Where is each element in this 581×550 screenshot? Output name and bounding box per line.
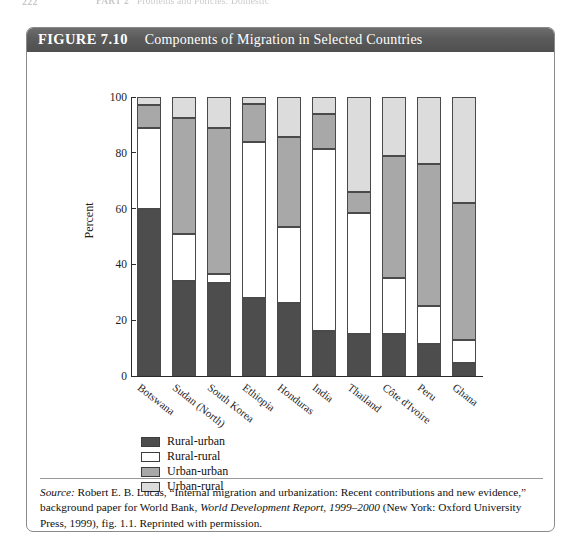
legend-label: Rural-rural (167, 449, 220, 464)
bar-botswana[interactable] (137, 97, 161, 376)
bar-segment-rural-rural (382, 278, 406, 334)
bar-segment-urban-urban (207, 128, 231, 274)
bar-segment-urban-urban (242, 104, 266, 142)
bar-thailand[interactable] (347, 97, 371, 376)
source-report-title: World Development Report, 1999–2000 (200, 501, 380, 513)
chart-area: Percent 020406080100 BotswanaSudan (Nort… (27, 53, 555, 478)
y-axis-tick: 80 (116, 147, 132, 159)
bar-india[interactable] (312, 97, 336, 376)
bar-segment-urban-rural (277, 97, 301, 137)
bar-segment-urban-urban (417, 164, 441, 306)
y-axis-tick: 20 (116, 314, 132, 326)
bar-segment-urban-rural (137, 97, 161, 105)
bar-segment-rural-urban (417, 344, 441, 376)
bar-segment-urban-rural (382, 97, 406, 156)
x-axis-label-peru: Peru (416, 381, 439, 403)
y-axis-tick-label: 80 (116, 147, 128, 159)
figure-title: Components of Migration in Selected Coun… (145, 32, 423, 48)
bar-segment-rural-urban (137, 209, 161, 376)
legend-label: Urban-urban (167, 464, 228, 479)
bar-segment-urban-urban (382, 156, 406, 279)
bar-segment-rural-urban (347, 334, 371, 376)
page-running-head: 222 PART 2Problems and Policies: Domesti… (0, 0, 581, 14)
bar-segment-urban-urban (312, 114, 336, 149)
bar-segment-urban-rural (452, 97, 476, 203)
bar-group (131, 97, 482, 376)
y-axis-tick-label: 100 (110, 91, 127, 103)
bar-segment-urban-rural (417, 97, 441, 164)
legend-swatch-rural-rural (141, 452, 160, 462)
x-axis-label-thailand: Thailand (346, 381, 384, 415)
legend-label: Rural-urban (167, 434, 225, 449)
bar-segment-rural-urban (242, 298, 266, 376)
bar-segment-rural-urban (452, 363, 476, 376)
y-axis-tick-label: 0 (121, 370, 127, 382)
bar-segment-rural-rural (137, 128, 161, 209)
running-head-part: PART 2 (96, 0, 129, 6)
y-axis-tick: 0 (121, 370, 131, 382)
bar-ethiopia[interactable] (242, 97, 266, 376)
bar-segment-urban-rural (347, 97, 371, 192)
bar-segment-rural-rural (452, 340, 476, 364)
bar-segment-rural-urban (312, 331, 336, 376)
x-axis-label-india: India (311, 381, 336, 404)
y-axis-tick-label: 20 (116, 314, 128, 326)
source-divider (40, 478, 543, 479)
bar-sudan-north[interactable] (172, 97, 196, 376)
bar-segment-rural-urban (277, 303, 301, 376)
bar-segment-rural-urban (172, 281, 196, 376)
bar-segment-rural-urban (382, 334, 406, 376)
legend-swatch-rural-urban (141, 437, 160, 447)
y-axis-tick: 60 (116, 203, 132, 215)
y-axis-tick-label: 40 (116, 258, 128, 270)
bar-segment-urban-rural (207, 97, 231, 128)
bar-segment-urban-urban (172, 118, 196, 234)
y-axis-tick: 40 (116, 258, 132, 270)
bar-segment-rural-urban (207, 283, 231, 376)
bar-segment-urban-rural (312, 97, 336, 114)
bar-ghana[interactable] (452, 97, 476, 376)
figure-title-banner: FIGURE 7.10 Components of Migration in S… (26, 27, 555, 52)
bar-segment-rural-rural (207, 274, 231, 282)
bar-segment-rural-rural (347, 213, 371, 334)
source-note: Source: Robert E. B. Lucas, “Internal mi… (40, 485, 545, 531)
bar-segment-rural-rural (417, 306, 441, 344)
bar-segment-rural-rural (312, 149, 336, 332)
page-folio-number: 222 (22, 0, 38, 7)
x-axis-label-honduras: Honduras (276, 381, 317, 417)
bar-c-te-d-ivoire[interactable] (382, 97, 406, 376)
legend-item-rural-rural[interactable]: Rural-rural (141, 449, 361, 464)
figure-number-label: FIGURE 7.10 (38, 31, 128, 48)
bar-segment-urban-urban (137, 105, 161, 127)
x-axis-label-botswana: Botswana (135, 381, 177, 417)
figure-container: FIGURE 7.10 Components of Migration in S… (26, 27, 555, 532)
source-word: Source: (40, 486, 75, 498)
bar-segment-rural-rural (242, 142, 266, 298)
bar-segment-urban-urban (277, 137, 301, 226)
y-axis-tick: 100 (110, 91, 131, 103)
x-axis-label-ghana: Ghana (451, 381, 481, 408)
bar-segment-urban-rural (242, 97, 266, 104)
bar-segment-urban-rural (172, 97, 196, 118)
bar-honduras[interactable] (277, 97, 301, 376)
bar-south-korea[interactable] (207, 97, 231, 376)
running-head-text: PART 2Problems and Policies: Domestic (96, 0, 269, 6)
y-axis-tick-label: 60 (116, 203, 128, 215)
bar-segment-rural-rural (172, 234, 196, 281)
y-axis-title: Percent (82, 203, 97, 239)
bar-peru[interactable] (417, 97, 441, 376)
legend-swatch-urban-urban (141, 467, 160, 477)
legend-item-rural-urban[interactable]: Rural-urban (141, 434, 361, 449)
bar-segment-urban-urban (452, 203, 476, 340)
running-head-title: Problems and Policies: Domestic (137, 0, 269, 6)
legend-item-urban-urban[interactable]: Urban-urban (141, 464, 361, 479)
bar-segment-urban-urban (347, 192, 371, 213)
plot-area: 020406080100 (131, 97, 482, 376)
bar-segment-rural-rural (277, 227, 301, 304)
